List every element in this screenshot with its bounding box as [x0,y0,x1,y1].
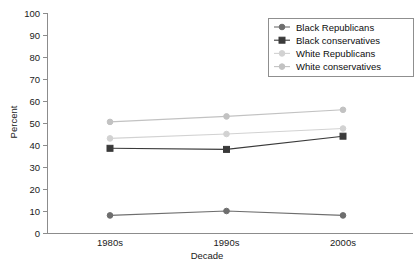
legend-marker [279,64,285,70]
data-point [107,145,113,151]
data-point [340,107,346,113]
data-point [340,126,346,132]
line-chart: 0102030405060708090100 1980s1990s2000s P… [0,0,418,264]
data-point [107,136,113,142]
data-point [224,114,230,120]
legend-label: Black Republicans [296,22,374,33]
legend-label: White Republicans [296,48,375,59]
data-point [224,131,230,137]
y-tick-label: 10 [29,206,40,217]
x-axis-title: Decade [191,250,224,261]
y-tick-label: 30 [29,162,40,173]
x-tick-label: 1980s [97,237,123,248]
data-point [340,133,346,139]
y-tick-label: 80 [29,52,40,63]
y-tick-label: 20 [29,184,40,195]
y-tick-label: 100 [24,8,40,19]
y-tick-label: 40 [29,140,40,151]
legend-marker [279,51,285,57]
legend-label: Black conservatives [296,35,380,46]
chart-canvas: 0102030405060708090100 1980s1990s2000s P… [0,0,418,264]
x-tick-label: 1990s [214,237,240,248]
legend-label: White conservatives [296,61,381,72]
chart-legend: Black RepublicansBlack conservativesWhit… [268,18,413,76]
data-point [340,213,346,219]
data-point [224,208,230,214]
y-tick-label: 50 [29,118,40,129]
data-point [107,213,113,219]
y-tick-label: 0 [35,228,40,239]
x-tick-label: 2000s [330,237,356,248]
legend-marker [279,37,285,43]
y-tick-label: 60 [29,96,40,107]
data-point [107,119,113,125]
y-tick-label: 90 [29,30,40,41]
legend-marker [279,24,285,30]
y-tick-label: 70 [29,74,40,85]
data-point [224,146,230,152]
y-axis-title: Percent [8,105,19,138]
